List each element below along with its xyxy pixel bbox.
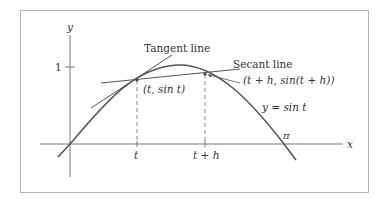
curve-label: y = sin t <box>261 101 307 113</box>
point-t-plus-h-label: (t + h, sin(t + h)) <box>243 74 334 86</box>
point-t <box>135 78 138 81</box>
frame-border <box>21 11 369 193</box>
y-axis-label: y <box>66 21 74 33</box>
x-axis-label: x <box>347 138 353 150</box>
pi-label: π <box>282 130 290 141</box>
point-t-label: (t, sin t) <box>143 83 185 95</box>
tangent-line-label: Tangent line <box>144 42 210 54</box>
secant-line-label: Secant line <box>233 58 293 70</box>
x-tick-label-t-plus-h: t + h <box>193 149 219 161</box>
point-t-plus-h <box>203 72 206 75</box>
diagram-figure: y 1 x t t + h π Tangent line Secant line… <box>0 0 388 202</box>
y-tick-label: 1 <box>55 61 62 73</box>
